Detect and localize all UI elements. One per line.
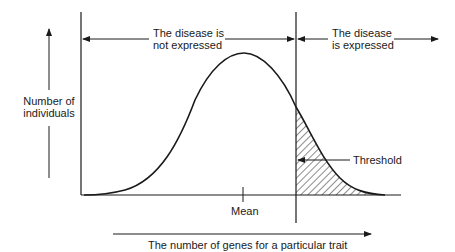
mean-label: Mean <box>231 205 259 217</box>
threshold-label: Threshold <box>353 154 402 166</box>
y-axis-line2: individuals <box>22 107 76 119</box>
not-expressed-line2: not expressed <box>153 39 224 51</box>
y-axis-line1: Number of <box>22 95 76 107</box>
expressed-line2: is expressed <box>332 39 394 51</box>
shaded-tail <box>296 107 380 195</box>
x-axis-label: The number of genes for a particular tra… <box>148 239 347 251</box>
not-expressed-label: The disease is not expressed <box>153 27 224 51</box>
distribution-curve <box>84 53 385 195</box>
expressed-line1: The disease <box>332 27 394 39</box>
expressed-label: The disease is expressed <box>332 27 394 51</box>
y-axis-label: Number of individuals <box>22 95 76 119</box>
not-expressed-line1: The disease is <box>153 27 224 39</box>
